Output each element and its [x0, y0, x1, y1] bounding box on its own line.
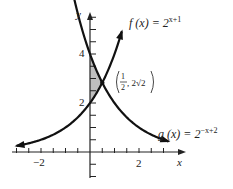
point-x-numerator: 1	[121, 72, 125, 81]
y-axis-label: y	[75, 8, 81, 20]
g-label: g (x) = 2−x+2	[158, 126, 217, 141]
f-label: f (x) = 2x+1	[129, 15, 181, 30]
curve-f-left-arrow-icon	[15, 141, 25, 148]
function-graph: y x −2 2 2 4 f (x) = 2x+1 g (x) = 2−x+2 …	[0, 0, 233, 189]
intersection-point	[100, 81, 104, 85]
x-axis-label: x	[176, 156, 182, 168]
g-label-exponent: −x+2	[200, 126, 217, 135]
point-x-denominator: 2	[121, 83, 125, 92]
axes	[12, 16, 182, 178]
intersection-label: 1 2 , 2√2	[117, 71, 154, 93]
x-axis-arrow-icon	[178, 149, 186, 155]
f-label-exponent: x+1	[169, 15, 182, 24]
curve-f-arrow-icon	[116, 29, 123, 40]
tick-label-y2: 2	[79, 96, 85, 108]
tick-label-y4: 4	[79, 47, 85, 59]
tick-label-x2: 2	[136, 157, 142, 169]
y-axis-arrow-icon	[87, 12, 93, 20]
g-label-prefix: g (x) = 2	[158, 127, 200, 141]
f-label-prefix: f (x) = 2	[129, 16, 169, 30]
point-y-value: , 2√2	[127, 78, 145, 88]
tick-label-neg2: −2	[33, 156, 45, 168]
